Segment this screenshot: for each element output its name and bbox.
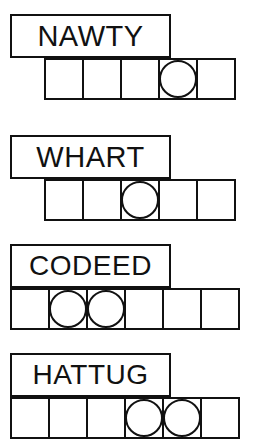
answer-cell[interactable] [158, 179, 198, 221]
answer-cell[interactable] [196, 58, 236, 100]
answer-cell[interactable] [44, 179, 84, 221]
circle-marker-icon [159, 60, 197, 98]
answer-cell-grid [10, 397, 240, 439]
answer-cell-grid [44, 58, 236, 100]
answer-cell[interactable] [124, 397, 164, 439]
circle-marker-icon [163, 399, 201, 437]
answer-cell[interactable] [162, 288, 202, 330]
answer-cell[interactable] [158, 58, 198, 100]
circle-marker-icon [125, 399, 163, 437]
scrambled-word-text: NAWTY [37, 22, 143, 51]
answer-cell[interactable] [82, 58, 122, 100]
answer-cell[interactable] [196, 179, 236, 221]
answer-cell[interactable] [86, 397, 126, 439]
circle-marker-icon [87, 290, 125, 328]
circle-marker-icon [121, 181, 159, 219]
puzzle-board: NAWTYWHARTCODEEDHATTUG [0, 0, 262, 441]
answer-cell[interactable] [10, 397, 50, 439]
answer-cell[interactable] [162, 397, 202, 439]
word-label-box: CODEED [10, 244, 171, 288]
scrambled-word-text: WHART [36, 143, 144, 172]
answer-cell[interactable] [48, 288, 88, 330]
answer-cell[interactable] [44, 58, 84, 100]
scrambled-word-text: HATTUG [32, 361, 148, 389]
answer-cell[interactable] [120, 179, 160, 221]
answer-cell[interactable] [200, 288, 240, 330]
word-label-box: HATTUG [10, 353, 171, 397]
answer-cell[interactable] [120, 58, 160, 100]
answer-cell[interactable] [86, 288, 126, 330]
circle-marker-icon [49, 290, 87, 328]
scrambled-word-text: CODEED [29, 252, 152, 280]
answer-cell[interactable] [10, 288, 50, 330]
word-label-box: WHART [10, 135, 171, 179]
answer-cell[interactable] [48, 397, 88, 439]
word-label-box: NAWTY [10, 14, 171, 58]
answer-cell[interactable] [82, 179, 122, 221]
answer-cell[interactable] [200, 397, 240, 439]
answer-cell-grid [10, 288, 240, 330]
answer-cell-grid [44, 179, 236, 221]
answer-cell[interactable] [124, 288, 164, 330]
